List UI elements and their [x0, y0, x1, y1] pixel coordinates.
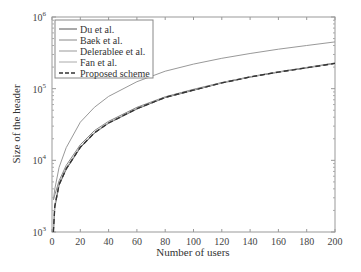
legend-label: Delerablee et al.: [80, 46, 145, 57]
x-tick-label: 140: [243, 236, 258, 247]
legend-label: Fan et al.: [80, 57, 117, 68]
x-tick-label: 20: [75, 236, 85, 247]
legend-label: Baek et al.: [80, 35, 122, 46]
x-tick-label: 160: [271, 236, 286, 247]
y-tick-label: 106: [33, 10, 47, 23]
legend-label: Du et al.: [80, 24, 114, 35]
y-tick-label: 105: [33, 82, 47, 95]
y-axis-label: Size of the header: [10, 84, 22, 163]
chart: 020406080100120140160180200 103104105106…: [0, 0, 361, 272]
x-axis-label: Number of users: [156, 246, 229, 258]
legend-label: Proposed scheme: [80, 68, 150, 79]
legend: Du et al.Baek et al.Delerablee et al.Fan…: [55, 20, 153, 79]
x-tick-label: 40: [104, 236, 114, 247]
y-tick-label: 103: [33, 225, 47, 238]
x-tick-label: 60: [132, 236, 142, 247]
x-tick-label: 180: [299, 236, 314, 247]
x-tick-label: 0: [50, 236, 55, 247]
x-tick-label: 200: [328, 236, 343, 247]
y-tick-label: 104: [33, 153, 47, 166]
